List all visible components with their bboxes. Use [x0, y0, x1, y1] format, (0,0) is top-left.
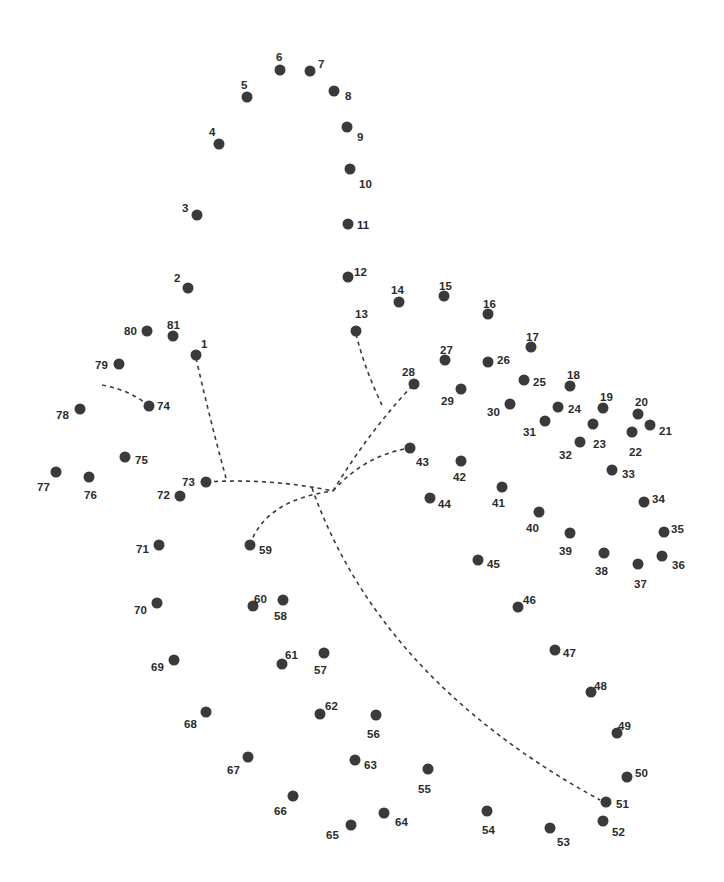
dot-marker[interactable] — [409, 379, 420, 390]
dot-78[interactable]: 78 — [56, 404, 86, 422]
dot-41[interactable]: 41 — [492, 482, 508, 510]
dot-marker[interactable] — [201, 707, 212, 718]
dot-8[interactable]: 8 — [329, 86, 353, 103]
dot-marker[interactable] — [319, 648, 330, 659]
dot-marker[interactable] — [645, 420, 656, 431]
dot-marker[interactable] — [405, 443, 416, 454]
dot-12[interactable]: 12 — [343, 266, 367, 283]
dot-marker[interactable] — [482, 806, 493, 817]
dot-37[interactable]: 37 — [633, 559, 647, 591]
dot-11[interactable]: 11 — [343, 219, 370, 232]
dot-23[interactable]: 23 — [588, 419, 606, 451]
dot-15[interactable]: 15 — [439, 280, 453, 302]
dot-marker[interactable] — [633, 409, 644, 420]
dot-marker[interactable] — [519, 375, 530, 386]
dot-marker[interactable] — [598, 403, 609, 414]
dot-55[interactable]: 55 — [418, 764, 434, 796]
dot-marker[interactable] — [565, 528, 576, 539]
dot-marker[interactable] — [394, 297, 405, 308]
dot-80[interactable]: 80 — [124, 325, 153, 337]
dot-45[interactable]: 45 — [473, 555, 501, 571]
dot-marker[interactable] — [288, 791, 299, 802]
dot-marker[interactable] — [114, 359, 125, 370]
dot-marker[interactable] — [622, 772, 633, 783]
dot-marker[interactable] — [540, 416, 551, 427]
dot-marker[interactable] — [505, 399, 516, 410]
dot-75[interactable]: 75 — [120, 452, 149, 467]
dot-marker[interactable] — [513, 602, 524, 613]
dot-marker[interactable] — [191, 350, 202, 361]
dot-marker[interactable] — [545, 823, 556, 834]
dot-70[interactable]: 70 — [134, 598, 163, 617]
dot-33[interactable]: 33 — [607, 465, 635, 481]
dot-59[interactable]: 59 — [245, 540, 272, 557]
dot-marker[interactable] — [550, 645, 561, 656]
dot-marker[interactable] — [371, 710, 382, 721]
dot-38[interactable]: 38 — [595, 548, 610, 578]
dot-6[interactable]: 6 — [275, 51, 286, 76]
dot-47[interactable]: 47 — [550, 645, 576, 660]
dot-31[interactable]: 31 — [523, 416, 551, 439]
dot-43[interactable]: 43 — [405, 443, 429, 469]
dot-marker[interactable] — [183, 283, 194, 294]
dot-36[interactable]: 36 — [657, 551, 685, 572]
dot-marker[interactable] — [169, 655, 180, 666]
dot-57[interactable]: 57 — [314, 648, 330, 677]
dot-marker[interactable] — [75, 404, 86, 415]
dot-29[interactable]: 29 — [441, 384, 467, 408]
dot-marker[interactable] — [152, 598, 163, 609]
dot-marker[interactable] — [483, 357, 494, 368]
dot-73[interactable]: 73 — [182, 476, 212, 488]
dot-marker[interactable] — [633, 559, 644, 570]
dot-56[interactable]: 56 — [367, 710, 382, 741]
dot-marker[interactable] — [607, 465, 618, 476]
dot-4[interactable]: 4 — [209, 126, 225, 150]
dot-81[interactable]: 81 — [167, 319, 180, 342]
dot-22[interactable]: 22 — [627, 427, 642, 459]
dot-35[interactable]: 35 — [659, 523, 685, 538]
dot-marker[interactable] — [526, 342, 537, 353]
dot-30[interactable]: 30 — [487, 399, 516, 419]
dot-marker[interactable] — [456, 456, 467, 467]
dot-marker[interactable] — [627, 427, 638, 438]
dot-39[interactable]: 39 — [559, 528, 576, 558]
dot-48[interactable]: 48 — [586, 680, 608, 698]
dot-1[interactable]: 1 — [191, 338, 209, 361]
dot-44[interactable]: 44 — [425, 493, 452, 511]
dot-49[interactable]: 49 — [612, 720, 631, 739]
dot-marker[interactable] — [245, 540, 256, 551]
dot-marker[interactable] — [565, 381, 576, 392]
dot-65[interactable]: 65 — [326, 820, 357, 842]
dot-marker[interactable] — [575, 437, 586, 448]
dot-60[interactable]: 60 — [248, 593, 267, 612]
dot-3[interactable]: 3 — [182, 202, 203, 221]
dot-69[interactable]: 69 — [151, 655, 180, 674]
dot-28[interactable]: 28 — [402, 366, 420, 390]
dot-marker[interactable] — [379, 808, 390, 819]
dot-marker[interactable] — [351, 326, 362, 337]
dot-marker[interactable] — [242, 92, 253, 103]
dot-marker[interactable] — [483, 309, 494, 320]
dot-18[interactable]: 18 — [565, 369, 581, 392]
dot-64[interactable]: 64 — [379, 808, 409, 829]
dot-marker[interactable] — [456, 384, 467, 395]
dot-marker[interactable] — [601, 797, 612, 808]
dot-26[interactable]: 26 — [483, 354, 510, 368]
dot-marker[interactable] — [315, 709, 326, 720]
dot-25[interactable]: 25 — [519, 375, 547, 389]
dot-marker[interactable] — [214, 139, 225, 150]
dot-marker[interactable] — [588, 419, 599, 430]
dot-2[interactable]: 2 — [174, 272, 194, 294]
dot-marker[interactable] — [657, 551, 668, 562]
dot-marker[interactable] — [598, 816, 609, 827]
dot-42[interactable]: 42 — [453, 456, 467, 484]
dot-61[interactable]: 61 — [277, 649, 299, 670]
dot-13[interactable]: 13 — [351, 308, 368, 337]
dot-marker[interactable] — [192, 210, 203, 221]
dot-62[interactable]: 62 — [315, 700, 338, 720]
dot-51[interactable]: 51 — [601, 797, 630, 811]
dot-marker[interactable] — [142, 326, 153, 337]
dot-marker[interactable] — [659, 527, 670, 538]
dot-marker[interactable] — [120, 452, 131, 463]
dot-marker[interactable] — [154, 540, 165, 551]
